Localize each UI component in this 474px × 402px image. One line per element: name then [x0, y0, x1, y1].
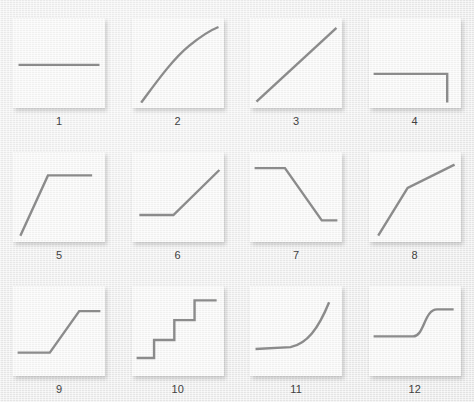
shape-line-decline-icon [250, 152, 342, 242]
shape-cell-11[interactable]: 11 [237, 268, 356, 402]
shape-line-linear-icon [250, 18, 342, 108]
shape-card-9[interactable] [13, 286, 105, 376]
shape-line-flat-ramp-icon [132, 152, 224, 242]
shape-cell-5[interactable]: 5 [0, 134, 119, 268]
shape-card-4[interactable] [369, 18, 461, 108]
shape-label-8: 8 [412, 249, 418, 261]
shape-cell-2[interactable]: 2 [119, 0, 238, 134]
shape-card-10[interactable] [132, 286, 224, 376]
shape-label-7: 7 [293, 249, 299, 261]
shape-cell-8[interactable]: 8 [356, 134, 474, 268]
shape-line-flat-icon [13, 18, 105, 108]
shape-label-6: 6 [175, 249, 181, 261]
shape-line-exponential-icon [250, 286, 342, 376]
shape-card-6[interactable] [132, 152, 224, 242]
shape-card-1[interactable] [13, 18, 105, 108]
shape-line-kinked-rise-icon [369, 152, 461, 242]
shape-line-s-curve-icon [369, 286, 461, 376]
shape-line-log-icon [132, 18, 224, 108]
shape-cell-7[interactable]: 7 [237, 134, 356, 268]
shape-label-5: 5 [56, 249, 62, 261]
shape-label-9: 9 [56, 383, 62, 395]
shape-card-2[interactable] [132, 18, 224, 108]
shape-cell-9[interactable]: 9 [0, 268, 119, 402]
shape-label-2: 2 [175, 115, 181, 127]
shape-card-8[interactable] [369, 152, 461, 242]
shape-cell-10[interactable]: 10 [119, 268, 238, 402]
shape-card-3[interactable] [250, 18, 342, 108]
shape-line-ramp-saturate-icon [13, 152, 105, 242]
shape-card-7[interactable] [250, 152, 342, 242]
shape-line-step-down-icon [369, 18, 461, 108]
shape-cell-1[interactable]: 1 [0, 0, 119, 134]
shape-label-10: 10 [171, 383, 184, 395]
shape-cell-6[interactable]: 6 [119, 134, 238, 268]
shape-label-11: 11 [290, 383, 302, 395]
shape-label-1: 1 [56, 115, 62, 127]
shape-line-staircase-icon [132, 286, 224, 376]
shape-label-3: 3 [293, 115, 299, 127]
shape-cell-12[interactable]: 12 [356, 268, 474, 402]
shape-line-flat-rise-flat-icon [13, 286, 105, 376]
shape-cell-4[interactable]: 4 [356, 0, 474, 134]
shape-card-grid: 1 2 3 4 5 [0, 0, 474, 402]
shape-card-12[interactable] [369, 286, 461, 376]
shape-label-12: 12 [408, 383, 421, 395]
shape-label-4: 4 [412, 115, 418, 127]
shape-card-11[interactable] [250, 286, 342, 376]
shape-card-5[interactable] [13, 152, 105, 242]
shape-cell-3[interactable]: 3 [237, 0, 356, 134]
